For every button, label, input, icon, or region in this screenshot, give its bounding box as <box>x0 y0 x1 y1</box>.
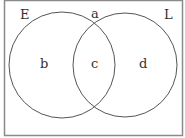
region-only-l-label: d <box>139 56 147 71</box>
set-l-label: L <box>164 7 173 22</box>
region-only-e-label: b <box>40 56 48 71</box>
venn-diagram: E L a b c d <box>0 0 185 138</box>
region-intersection-label: c <box>91 56 98 71</box>
region-outside-label: a <box>91 6 99 21</box>
set-e-label: E <box>20 7 30 22</box>
